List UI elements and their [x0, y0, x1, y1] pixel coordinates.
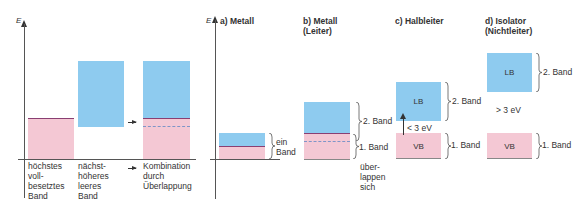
b-dashed-line — [304, 141, 350, 142]
d-baseline — [487, 158, 532, 159]
b-overlap-note: über- lappen sich — [360, 162, 386, 192]
combo-full-part — [143, 118, 190, 159]
d-gap-label: > 3 eV — [496, 105, 521, 115]
c-upper-brace-label: 2. Band — [452, 96, 481, 106]
band-top-line — [28, 118, 74, 119]
baseline — [18, 159, 196, 160]
label-empty-band: nächst- höheres leeres Band — [78, 161, 109, 199]
title-d: d) Isolator (Nichtleiter) — [485, 16, 532, 36]
baseline — [210, 159, 280, 160]
c-lower-brace-label: 1. Band — [451, 140, 480, 150]
c-baseline — [396, 158, 441, 159]
arrow-up-icon — [400, 113, 406, 119]
brace-icon — [535, 53, 543, 92]
combo-empty-part — [143, 61, 190, 118]
label-combination: Kombination durch Überlappung — [143, 161, 192, 191]
label-full-band: höchstes voll- besetztes Band — [28, 161, 64, 199]
a-lower — [219, 146, 265, 159]
b-fermi-line — [304, 133, 350, 134]
title-a: a) Metall — [220, 16, 254, 26]
b-lower-brace-label: 1. Band — [359, 142, 388, 152]
d-lower-brace-label: 1. Band — [542, 140, 571, 150]
a-band-label: ein Band — [276, 137, 296, 157]
combo-dashed-line — [143, 126, 190, 127]
b-upper — [304, 102, 350, 133]
a-fermi-line — [219, 146, 265, 147]
title-c: c) Halbleiter — [395, 16, 444, 26]
title-b: b) Metall (Leiter) — [303, 16, 337, 36]
b-baseline — [304, 159, 350, 160]
c-excitation-arrow — [403, 118, 404, 135]
arrow-right-icon — [128, 122, 136, 123]
c-vb-label: VB — [413, 142, 424, 151]
energy-axis — [215, 20, 216, 199]
d-vb-label: VB — [504, 142, 515, 151]
c-valence-band: VB — [396, 133, 441, 159]
b-upper-brace-label: 2. Band — [363, 116, 392, 126]
a-upper — [219, 133, 265, 146]
d-valence-band: VB — [487, 133, 532, 159]
d-lb-label: LB — [505, 68, 515, 77]
arrow-right-icon — [128, 168, 136, 169]
energy-axis-label: E — [206, 16, 211, 25]
brace-icon — [444, 82, 452, 121]
d-conduction-band: LB — [487, 53, 532, 92]
d-upper-brace-label: 2. Band — [543, 67, 572, 77]
combo-top-line — [143, 118, 190, 119]
b-lower — [304, 133, 350, 159]
full-band — [28, 118, 74, 159]
empty-band — [78, 61, 124, 127]
brace-icon — [268, 133, 276, 159]
c-lb-label: LB — [414, 97, 424, 106]
c-gap-label: < 3 eV — [407, 123, 432, 133]
energy-axis — [24, 24, 25, 198]
